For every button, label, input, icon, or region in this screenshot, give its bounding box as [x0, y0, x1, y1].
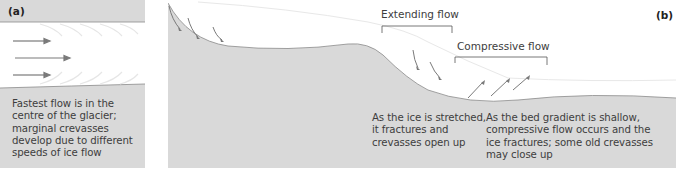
- compressive-flow-heading: Compressive flow: [457, 40, 550, 52]
- panel-a-caption: Fastest flow is in the centre of the gla…: [12, 98, 133, 159]
- caption-line: speeds of ice flow: [12, 147, 133, 159]
- caption-line: As the bed gradient is shallow,: [486, 112, 653, 124]
- panel-a-marginal-crevasses: (a) Fastest flow is in the centre of the…: [0, 0, 145, 168]
- caption-line: Fastest flow is in the: [12, 98, 133, 110]
- panel-b-label: (b): [656, 9, 673, 21]
- extending-caption: As the ice is stretched, it fractures an…: [372, 112, 486, 149]
- panel-a-label: (a): [8, 5, 25, 17]
- caption-line: ice fractures; some old crevasses: [486, 137, 653, 149]
- caption-line: marginal crevasses: [12, 123, 133, 135]
- caption-line: crevasses open up: [372, 137, 486, 149]
- caption-line: centre of the glacier;: [12, 110, 133, 122]
- extending-flow-heading: Extending flow: [381, 8, 459, 20]
- caption-line: As the ice is stretched,: [372, 112, 486, 124]
- flow-arrows: [13, 39, 70, 78]
- compressive-caption: As the bed gradient is shallow, compress…: [486, 112, 653, 161]
- caption-line: may close up: [486, 149, 653, 161]
- panel-b-extending-compressive-flow: (b) Extending flow Compressive flow As t…: [168, 0, 676, 168]
- caption-line: develop due to different: [12, 135, 133, 147]
- caption-line: compressive flow occurs and the: [486, 124, 653, 136]
- caption-line: it fractures and: [372, 124, 486, 136]
